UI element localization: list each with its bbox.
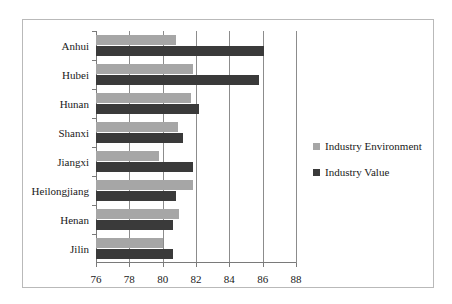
plot-area: 76788082848688 AnhuiHubeiHunanShanxiJian…: [96, 31, 296, 263]
category-label-anhui: Anhui: [62, 40, 90, 52]
legend-item: Industry Environment: [313, 140, 422, 152]
x-tick-label-88: 88: [291, 273, 302, 285]
category-label-henan: Henan: [60, 214, 89, 226]
legend-swatch-industry-environment: [313, 143, 320, 150]
bar-group: Hubei: [96, 60, 296, 89]
x-tick-82: [196, 263, 197, 267]
category-label-hubei: Hubei: [62, 69, 89, 81]
bar-heilongjiang-industry-environment: [96, 180, 193, 190]
bar-jiangxi-industry-value: [96, 162, 193, 172]
bar-hubei-industry-environment: [96, 64, 193, 74]
category-label-shanxi: Shanxi: [58, 127, 89, 139]
bar-group: Henan: [96, 205, 296, 234]
category-label-jilin: Jilin: [70, 243, 89, 255]
x-tick-label-82: 82: [191, 273, 202, 285]
chart-screenshot: 76788082848688 AnhuiHubeiHunanShanxiJian…: [0, 0, 452, 304]
y-tick: [92, 147, 96, 148]
y-tick: [92, 118, 96, 119]
bar-jiangxi-industry-environment: [96, 151, 159, 161]
x-tick-78: [129, 263, 130, 267]
bar-group: Hunan: [96, 89, 296, 118]
x-tick-label-80: 80: [157, 273, 168, 285]
bar-jilin-industry-environment: [96, 238, 163, 248]
bar-hunan-industry-value: [96, 104, 199, 114]
bar-group: Jilin: [96, 234, 296, 263]
legend-swatch-industry-value: [313, 169, 320, 176]
x-tick-86: [263, 263, 264, 267]
x-tick-label-78: 78: [124, 273, 135, 285]
x-tick-84: [229, 263, 230, 267]
category-label-heilongjiang: Heilongjiang: [32, 185, 89, 197]
bar-anhui-industry-value: [96, 46, 264, 56]
chart-frame: 76788082848688 AnhuiHubeiHunanShanxiJian…: [22, 19, 434, 288]
bar-jilin-industry-value: [96, 249, 173, 259]
bar-group: Heilongjiang: [96, 176, 296, 205]
x-tick-88: [296, 263, 297, 267]
legend-label-industry-value: Industry Value: [325, 166, 389, 178]
y-tick: [92, 176, 96, 177]
chart-legend: Industry Environment Industry Value: [313, 140, 422, 192]
bar-hunan-industry-environment: [96, 93, 191, 103]
bar-shanxi-industry-environment: [96, 122, 178, 132]
x-tick-label-84: 84: [224, 273, 235, 285]
x-tick-80: [163, 263, 164, 267]
bar-henan-industry-environment: [96, 209, 179, 219]
x-tick-76: [96, 263, 97, 267]
y-tick: [92, 60, 96, 61]
bar-shanxi-industry-value: [96, 133, 183, 143]
y-tick: [92, 31, 96, 32]
y-tick: [92, 205, 96, 206]
bar-anhui-industry-environment: [96, 35, 176, 45]
gridline-88: [296, 31, 297, 263]
y-tick: [92, 234, 96, 235]
bar-group: Jiangxi: [96, 147, 296, 176]
x-tick-label-86: 86: [257, 273, 268, 285]
bar-group: Shanxi: [96, 118, 296, 147]
legend-label-industry-environment: Industry Environment: [325, 140, 422, 152]
bar-group: Anhui: [96, 31, 296, 60]
category-label-jiangxi: Jiangxi: [57, 156, 89, 168]
bar-hubei-industry-value: [96, 75, 259, 85]
bar-henan-industry-value: [96, 220, 173, 230]
bar-heilongjiang-industry-value: [96, 191, 176, 201]
category-label-hunan: Hunan: [60, 98, 89, 110]
legend-item: Industry Value: [313, 166, 422, 178]
x-tick-label-76: 76: [91, 273, 102, 285]
y-tick: [92, 89, 96, 90]
